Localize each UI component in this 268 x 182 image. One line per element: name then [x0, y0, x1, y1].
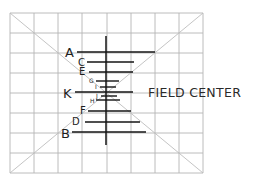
target-label-j: J — [95, 92, 98, 100]
target-label-i: I — [95, 83, 97, 90]
target-label-b: B — [61, 126, 70, 141]
target-label-h: H — [90, 97, 95, 104]
target-label-a: A — [65, 45, 74, 60]
target-label-d: D — [72, 116, 80, 127]
target-label-e: E — [79, 66, 85, 77]
target-label-k: K — [63, 86, 72, 101]
target-label-f: F — [80, 105, 86, 116]
field-center-diagram: ACEGIKJHFDB FIELD CENTER — [0, 0, 268, 182]
field-center-label: FIELD CENTER — [148, 85, 241, 100]
target-label-g: G — [89, 77, 94, 84]
